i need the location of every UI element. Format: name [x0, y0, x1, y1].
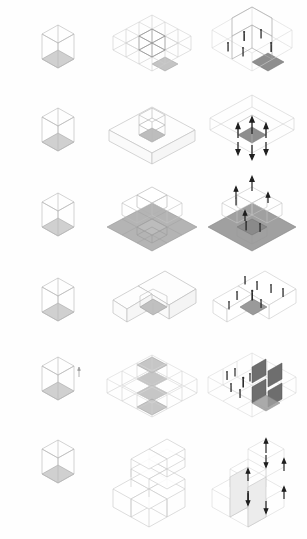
inhabited-cell-3[interactable]: Terraces with figures and vertical arrow… — [198, 175, 307, 260]
courtyard-void-massing — [109, 107, 195, 164]
massing-cell-6[interactable]: Stacked stepped pyramid of cubes — [95, 435, 205, 535]
inhabited-cell-1[interactable]: Grid frame with figures and shaded court — [198, 4, 307, 89]
grid-field-inhabited — [212, 7, 292, 71]
unit-cube-5 — [42, 357, 80, 400]
l-shape-massing — [113, 271, 196, 322]
study-row-2: Base unit cube Solid slab with central c… — [0, 90, 307, 175]
stepped-terrace-massing — [107, 187, 197, 251]
unit-cube-1 — [42, 25, 74, 68]
grid-field-massing — [113, 15, 191, 71]
stacked-aggregation-inhabited — [212, 439, 286, 527]
stepped-terrace-inhabited — [208, 177, 296, 252]
unit-cube-cell-3[interactable]: Base unit cube — [0, 175, 100, 260]
inhabited-cell-4[interactable]: L-shaped bar with roof figures — [198, 260, 307, 345]
inhabited-cell-6[interactable]: Stacked cubes with circulation arrows — [198, 435, 307, 535]
study-row-3: Base unit cube Stepped terraces with rai… — [0, 175, 307, 260]
unit-cube-3 — [42, 193, 74, 236]
stacked-aggregation-massing — [113, 439, 185, 527]
unit-cube-cell-2[interactable]: Base unit cube — [0, 90, 100, 175]
unit-cube-cell-1[interactable]: Base unit cube — [0, 4, 100, 89]
study-row-4: Base unit cube L-shaped bar with corner … — [0, 260, 307, 345]
unit-cube-4 — [42, 278, 74, 321]
unit-cube-cell-6[interactable]: Base unit cube — [0, 435, 100, 535]
study-row-1: Base unit cube Three by three grid with … — [0, 4, 307, 89]
study-row-5: Base unit cube Grid with diagon — [0, 345, 307, 430]
inhabited-cell-5[interactable]: Partition walls with interior figures — [198, 345, 307, 430]
diagonal-band-massing — [107, 355, 197, 417]
diagonal-band-inhabited — [208, 353, 296, 417]
unit-cube-cell-5[interactable]: Base unit cube — [0, 345, 100, 430]
massing-cell-2[interactable]: Solid slab with central courtyard void — [95, 90, 205, 175]
massing-cell-4[interactable]: L-shaped bar with corner notch recess — [95, 260, 205, 345]
unit-cube-2 — [42, 108, 74, 151]
unit-cube-cell-4[interactable]: Base unit cube — [0, 260, 100, 345]
massing-cell-3[interactable]: Stepped terraces with raised cube volume… — [95, 175, 205, 260]
massing-cell-5[interactable]: Grid with diagonal band of shaded cells — [95, 345, 205, 430]
small-arrow-5 — [78, 367, 81, 377]
courtyard-void-inhabited — [210, 95, 294, 160]
study-row-6: Base unit cube Stacked stepped pyramid o… — [0, 435, 307, 535]
l-shape-inhabited — [213, 271, 296, 322]
unit-cube-6 — [42, 440, 74, 483]
massing-cell-1[interactable]: Three by three grid with central raised … — [95, 4, 205, 89]
inhabited-cell-2[interactable]: Courtyard void with outward arrows — [198, 90, 307, 175]
diagram-sheet: Isometric Massing Studies Base unit cube… — [0, 0, 307, 539]
